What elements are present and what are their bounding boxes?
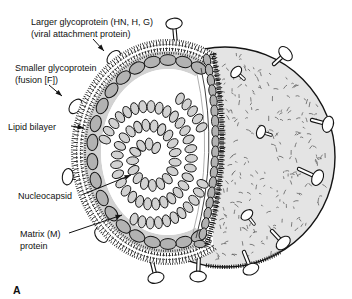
nucleocapsid-bead <box>143 198 151 210</box>
spike-head <box>190 271 207 282</box>
figure-letter: A <box>13 284 21 296</box>
nucleocapsid-bead <box>126 157 138 165</box>
nucleocapsid-bead <box>185 154 197 162</box>
spike-head <box>147 271 166 285</box>
label-nucleocapsid: Nucleocapsid <box>18 191 72 201</box>
label-smaller-glycoprotein-2: (fusion [F]) <box>15 75 58 85</box>
nucleocapsid-bead <box>146 217 154 229</box>
label-matrix-protein-1: Matrix (M) <box>20 229 61 239</box>
label-larger-glycoprotein-1: Larger glycoprotein (HN, H, G) <box>31 17 153 27</box>
label-larger-glycoprotein-2: (viral attachment protein) <box>31 29 131 39</box>
label-lipid-bilayer: Lipid bilayer <box>8 122 56 132</box>
virus-diagram: Larger glycoprotein (HN, H, G) (viral at… <box>0 0 352 299</box>
label-matrix-protein-2: protein <box>20 241 48 251</box>
figure-panel: Larger glycoprotein (HN, H, G) (viral at… <box>0 0 352 299</box>
spike-head <box>165 17 182 29</box>
glycoprotein-spike <box>274 44 295 64</box>
nucleocapsid-bead <box>147 101 155 113</box>
label-smaller-glycoprotein-1: Smaller glycoprotein <box>15 63 97 73</box>
